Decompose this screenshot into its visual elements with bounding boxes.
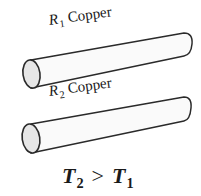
temperature-relation: T2>T1 — [62, 163, 134, 189]
relation-right-symbol: T — [112, 163, 125, 188]
rod-2-resistor-subscript: 2 — [59, 89, 66, 101]
relation-operator: > — [92, 163, 104, 188]
copper-rods-diagram: R1 Copper R2 Copper T2>T1 — [0, 0, 201, 196]
rod-1-resistor-symbol: R — [48, 11, 59, 28]
rod-1-resistor-subscript: 1 — [59, 18, 66, 30]
relation-right-subscript: 1 — [126, 175, 133, 191]
rod-2-resistor-symbol: R — [48, 82, 59, 99]
relation-left-symbol: T — [62, 163, 75, 188]
rod-2-cylinder — [20, 97, 191, 154]
relation-left-subscript: 2 — [76, 175, 83, 191]
